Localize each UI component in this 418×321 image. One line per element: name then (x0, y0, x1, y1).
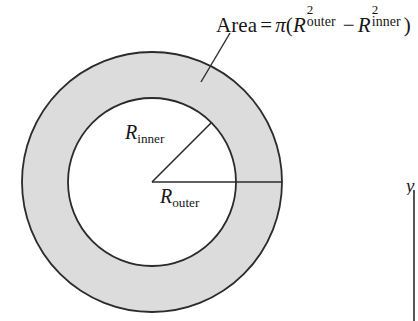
r-outer-label-subscript: outer (172, 195, 199, 210)
pi-symbol: π (275, 13, 286, 37)
r-inner-label-subscript: inner (137, 131, 164, 146)
r-inner-label-symbol: R (125, 121, 137, 143)
r-outer-label: Router (160, 186, 199, 206)
r-outer-symbol: R (293, 13, 306, 37)
r-inner-subscript: inner (372, 15, 401, 29)
r-outer-subscript: outer (307, 15, 336, 29)
r-outer-label-symbol: R (160, 185, 172, 207)
equals-sign: = (257, 13, 275, 37)
area-word: Area (216, 13, 257, 37)
r-inner-label: Rinner (125, 122, 164, 142)
y-axis-label: y (406, 176, 418, 195)
area-formula: Area=π(R2outer−R2inner) (216, 11, 411, 36)
annulus-figure: Area=π(R2outer−R2inner) Rinner Router y (0, 0, 418, 321)
figure-canvas (0, 0, 418, 321)
r-inner-symbol: R (358, 13, 371, 37)
close-paren: ) (404, 13, 411, 37)
minus-sign: − (340, 13, 358, 37)
open-paren: ( (286, 13, 293, 37)
